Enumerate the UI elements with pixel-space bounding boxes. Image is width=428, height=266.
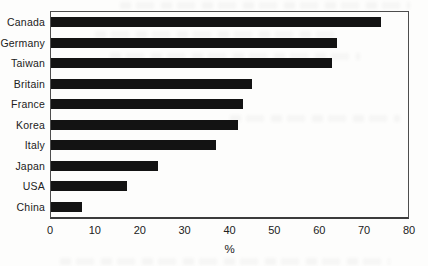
category-label-italy: Italy <box>25 139 45 151</box>
bar-china <box>51 202 82 212</box>
x-tick-label-0: 0 <box>47 224 53 236</box>
bar-britain <box>51 79 252 89</box>
category-label-japan: Japan <box>15 160 45 172</box>
x-tick-label-10: 10 <box>89 224 101 236</box>
bar-japan <box>51 161 158 171</box>
category-label-britain: Britain <box>14 78 45 90</box>
category-label-taiwan: Taiwan <box>11 57 45 69</box>
bar-germany <box>51 38 337 48</box>
bar-france <box>51 99 243 109</box>
x-tick-label-80: 80 <box>403 224 415 236</box>
scan-bleed-artifact <box>120 2 410 9</box>
bar-canada <box>51 17 381 27</box>
x-tick-label-70: 70 <box>358 224 370 236</box>
x-tick-label-60: 60 <box>313 224 325 236</box>
category-label-usa: USA <box>23 180 45 192</box>
x-tick-label-20: 20 <box>134 224 146 236</box>
x-tick-label-50: 50 <box>268 224 280 236</box>
plot-area: CanadaGermanyTaiwanBritainFranceKoreaIta… <box>50 11 409 219</box>
category-label-germany: Germany <box>0 37 45 49</box>
bar-taiwan <box>51 58 332 68</box>
bar-chart-figure: CanadaGermanyTaiwanBritainFranceKoreaIta… <box>0 0 428 266</box>
category-label-france: France <box>11 98 45 110</box>
bar-korea <box>51 120 238 130</box>
bar-usa <box>51 181 127 191</box>
x-axis-label: % <box>50 243 409 255</box>
scan-bleed-artifact <box>60 258 390 265</box>
x-tick-label-40: 40 <box>223 224 235 236</box>
category-label-canada: Canada <box>7 16 45 28</box>
category-label-china: China <box>17 201 45 213</box>
category-label-korea: Korea <box>16 119 45 131</box>
x-tick-label-30: 30 <box>179 224 191 236</box>
bar-italy <box>51 140 216 150</box>
